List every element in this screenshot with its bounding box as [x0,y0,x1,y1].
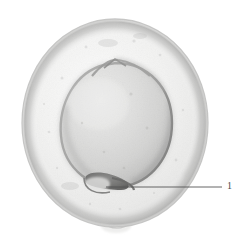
micrograph-image [0,0,245,250]
figure-panel: 1 [0,0,245,250]
annotation-label-1: 1 [227,181,232,191]
